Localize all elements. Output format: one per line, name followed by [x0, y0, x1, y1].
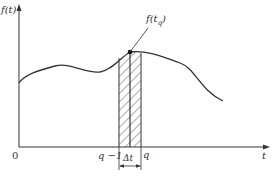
tick-q-minus-1-label: q −1 [98, 151, 122, 161]
tick-q-label: q [143, 150, 149, 160]
x-axis-arrow-icon [263, 145, 270, 150]
dim-arrow-left-icon [119, 164, 124, 167]
delta-t-label: Δt [123, 154, 133, 163]
function-diagram [0, 0, 278, 180]
dim-arrow-right-icon [136, 164, 141, 167]
origin-label: 0 [12, 151, 18, 161]
x-axis-label: t [262, 151, 266, 161]
y-axis-label: f(t) [1, 5, 17, 15]
point-label: f(tq) [146, 14, 166, 27]
point-leader-line [130, 28, 148, 52]
y-axis-arrow-icon [17, 4, 22, 11]
